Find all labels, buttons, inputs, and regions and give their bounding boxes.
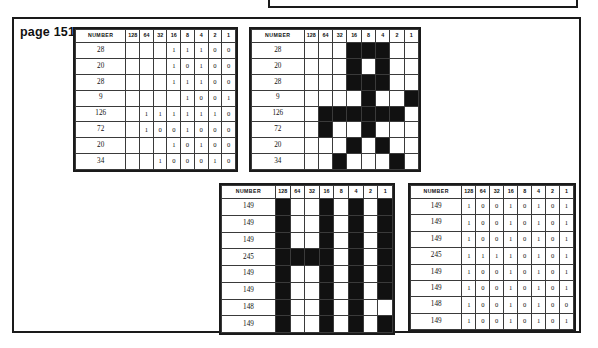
- pixel-cell-empty[interactable]: [290, 215, 305, 232]
- pixel-cell-empty[interactable]: [390, 90, 404, 106]
- pixel-cell-empty[interactable]: [305, 316, 320, 333]
- pixel-cell-empty[interactable]: [304, 43, 318, 59]
- bit-cell[interactable]: 0: [194, 122, 208, 138]
- bit-cell[interactable]: 0: [546, 264, 560, 280]
- pixel-cell-filled[interactable]: [349, 249, 364, 266]
- bit-cell[interactable]: 1: [560, 313, 574, 329]
- pixel-cell-empty[interactable]: [318, 138, 332, 154]
- pixel-cell-filled[interactable]: [378, 249, 393, 266]
- pixel-cell-filled[interactable]: [349, 316, 364, 333]
- bit-cell[interactable]: 1: [532, 264, 546, 280]
- pixel-cell-filled[interactable]: [333, 106, 347, 122]
- pixel-cell-empty[interactable]: [376, 122, 390, 138]
- pixel-cell-empty[interactable]: [376, 154, 390, 170]
- bit-cell[interactable]: 1: [167, 58, 181, 74]
- pixel-cell-filled[interactable]: [275, 282, 290, 299]
- bit-cell[interactable]: 1: [153, 154, 167, 170]
- pixel-cell-empty[interactable]: [333, 58, 347, 74]
- bit-cell[interactable]: 1: [504, 264, 518, 280]
- pixel-cell-empty[interactable]: [334, 299, 349, 316]
- bit-cell[interactable]: 1: [181, 74, 195, 90]
- number-cell[interactable]: 149: [411, 280, 462, 296]
- bit-cell[interactable]: 0: [222, 106, 236, 122]
- pixel-cell-empty[interactable]: [363, 266, 378, 283]
- pixel-cell-filled[interactable]: [404, 90, 418, 106]
- pixel-cell-filled[interactable]: [319, 266, 334, 283]
- bit-cell[interactable]: [153, 43, 167, 59]
- number-cell[interactable]: 34: [76, 154, 126, 170]
- number-cell[interactable]: 28: [76, 74, 126, 90]
- pixel-cell-empty[interactable]: [305, 199, 320, 216]
- pixel-cell-empty[interactable]: [304, 74, 318, 90]
- bit-cell[interactable]: 1: [532, 313, 546, 329]
- bit-cell[interactable]: 0: [490, 264, 504, 280]
- pixel-cell-filled[interactable]: [319, 249, 334, 266]
- pixel-cell-empty[interactable]: [305, 215, 320, 232]
- pixel-cell-filled[interactable]: [349, 215, 364, 232]
- bit-cell[interactable]: 1: [532, 280, 546, 296]
- bit-cell[interactable]: [126, 122, 140, 138]
- number-cell[interactable]: 149: [411, 215, 462, 231]
- pixel-cell-empty[interactable]: [318, 154, 332, 170]
- bit-cell[interactable]: 1: [181, 106, 195, 122]
- pixel-cell-filled[interactable]: [361, 106, 375, 122]
- bit-cell[interactable]: 0: [546, 313, 560, 329]
- bit-cell[interactable]: 0: [222, 43, 236, 59]
- number-cell[interactable]: 20: [76, 138, 126, 154]
- bit-cell[interactable]: 0: [208, 58, 222, 74]
- pixel-cell-filled[interactable]: [347, 58, 361, 74]
- pixel-cell-empty[interactable]: [361, 154, 375, 170]
- bit-cell[interactable]: 0: [476, 264, 490, 280]
- bit-cell[interactable]: 1: [140, 106, 154, 122]
- bit-cell[interactable]: 0: [208, 43, 222, 59]
- bit-cell[interactable]: 1: [504, 231, 518, 247]
- pixel-cell-empty[interactable]: [290, 266, 305, 283]
- bit-cell[interactable]: 1: [194, 43, 208, 59]
- pixel-cell-filled[interactable]: [378, 199, 393, 216]
- pixel-cell-filled[interactable]: [319, 232, 334, 249]
- bit-cell[interactable]: 0: [476, 280, 490, 296]
- table-top-right-pixels[interactable]: NUMBER12864321684212820289126722034: [249, 27, 421, 172]
- bit-cell[interactable]: [140, 43, 154, 59]
- number-cell[interactable]: 72: [252, 122, 305, 138]
- pixel-cell-empty[interactable]: [363, 282, 378, 299]
- pixel-cell-empty[interactable]: [334, 199, 349, 216]
- number-cell[interactable]: 20: [76, 58, 126, 74]
- bit-cell[interactable]: 0: [518, 248, 532, 264]
- pixel-cell-empty[interactable]: [304, 106, 318, 122]
- bit-cell[interactable]: 0: [560, 297, 574, 313]
- bit-cell[interactable]: 0: [490, 215, 504, 231]
- pixel-cell-filled[interactable]: [275, 266, 290, 283]
- bit-cell[interactable]: [126, 90, 140, 106]
- bit-cell[interactable]: 1: [532, 215, 546, 231]
- pixel-cell-empty[interactable]: [334, 266, 349, 283]
- pixel-cell-filled[interactable]: [319, 299, 334, 316]
- pixel-cell-empty[interactable]: [290, 199, 305, 216]
- pixel-cell-empty[interactable]: [318, 74, 332, 90]
- pixel-cell-empty[interactable]: [404, 74, 418, 90]
- bit-cell[interactable]: 1: [194, 74, 208, 90]
- pixel-cell-empty[interactable]: [290, 282, 305, 299]
- pixel-cell-empty[interactable]: [305, 232, 320, 249]
- bit-cell[interactable]: 1: [560, 199, 574, 215]
- bit-cell[interactable]: 1: [140, 122, 154, 138]
- bit-cell[interactable]: 1: [476, 248, 490, 264]
- bit-cell[interactable]: 0: [490, 199, 504, 215]
- bit-cell[interactable]: 0: [518, 231, 532, 247]
- number-cell[interactable]: 28: [252, 43, 305, 59]
- bit-cell[interactable]: [140, 58, 154, 74]
- bit-cell[interactable]: 1: [560, 231, 574, 247]
- bit-cell[interactable]: 1: [462, 280, 476, 296]
- bit-cell[interactable]: 0: [518, 264, 532, 280]
- table-top-left-binary[interactable]: NUMBER1286432168421281110020101002811100…: [73, 27, 238, 172]
- bit-cell[interactable]: 0: [476, 215, 490, 231]
- pixel-cell-filled[interactable]: [378, 266, 393, 283]
- pixel-cell-empty[interactable]: [404, 106, 418, 122]
- bit-cell[interactable]: 0: [194, 90, 208, 106]
- bit-cell[interactable]: [140, 138, 154, 154]
- bit-cell[interactable]: 0: [476, 297, 490, 313]
- bit-cell[interactable]: [140, 154, 154, 170]
- bit-cell[interactable]: 1: [462, 264, 476, 280]
- bit-cell[interactable]: [126, 154, 140, 170]
- pixel-cell-empty[interactable]: [390, 138, 404, 154]
